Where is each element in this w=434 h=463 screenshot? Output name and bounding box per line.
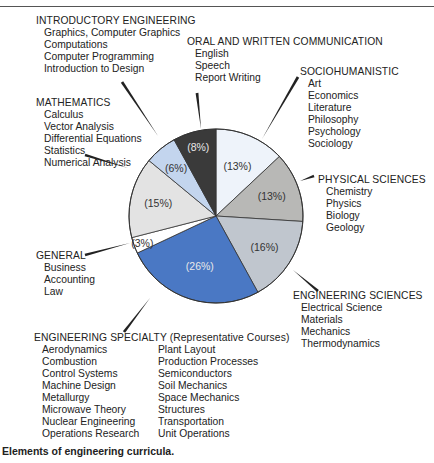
- course: Graphics, Computer Graphics: [36, 27, 196, 39]
- course: Business: [36, 262, 95, 274]
- course: Soil Mechanics: [158, 380, 258, 392]
- group-title: ENGINEERING SCIENCES: [293, 290, 423, 302]
- course: Vector Analysis: [36, 121, 142, 133]
- course: Psychology: [300, 126, 399, 138]
- course: Unit Operations: [158, 428, 258, 440]
- course: Sociology: [300, 138, 399, 150]
- course: Plant Layout: [158, 344, 258, 356]
- course: Statistics: [36, 145, 142, 157]
- slice-percent-label: (16%): [250, 241, 278, 253]
- label-physical-sciences: PHYSICAL SCIENCES Chemistry Physics Biol…: [318, 174, 426, 234]
- course: Physics: [318, 198, 426, 210]
- course: Thermodynamics: [293, 338, 423, 350]
- slice-percent-label: (13%): [223, 160, 251, 172]
- group-title: PHYSICAL SCIENCES: [318, 174, 426, 186]
- course: Chemistry: [318, 186, 426, 198]
- course: Introduction to Design: [36, 63, 196, 75]
- course: Calculus: [36, 109, 142, 121]
- slice-percent-label: (8%): [187, 141, 209, 153]
- slice-percent-label: (26%): [186, 260, 214, 272]
- course: Electrical Science: [293, 302, 423, 314]
- course: Art: [300, 78, 399, 90]
- leader-line: [262, 76, 299, 139]
- course: Materials: [293, 314, 423, 326]
- course: Economics: [300, 90, 399, 102]
- group-title: ORAL AND WRITTEN COMMUNICATION: [187, 36, 383, 48]
- slice-percent-label: (6%): [165, 162, 187, 174]
- group-title: ENGINEERING SPECIALTY (Representative Co…: [34, 332, 289, 344]
- group-title: GENERAL: [36, 250, 95, 262]
- specialty-column-2: Plant Layout Production Processes Semico…: [158, 344, 258, 440]
- label-mathematics: MATHEMATICS Calculus Vector Analysis Dif…: [36, 97, 142, 169]
- course: Geology: [318, 222, 426, 234]
- course: Computer Programming: [36, 51, 196, 63]
- label-sociohumanistic: SOCIOHUMANISTIC Art Economics Literature…: [300, 66, 399, 150]
- course: Numerical Analysis: [36, 157, 142, 169]
- course: Transportation: [158, 416, 258, 428]
- group-title: SOCIOHUMANISTIC: [300, 66, 399, 78]
- label-engineering-sciences: ENGINEERING SCIENCES Electrical Science …: [293, 290, 423, 350]
- leader-line: [123, 298, 150, 333]
- figure-caption: Elements of engineering curricula.: [2, 445, 174, 457]
- course: Philosophy: [300, 114, 399, 126]
- slice-percent-label: (13%): [258, 190, 286, 202]
- course: Literature: [300, 102, 399, 114]
- course: Biology: [318, 210, 426, 222]
- slice-percent-label: (3%): [131, 237, 153, 249]
- leader-line: [196, 93, 201, 129]
- course: Production Processes: [158, 356, 258, 368]
- leader-line: [300, 175, 314, 181]
- course: Accounting: [36, 274, 95, 286]
- course: Differential Equations: [36, 133, 142, 145]
- group-title: MATHEMATICS: [36, 97, 142, 109]
- course: English: [187, 48, 383, 60]
- course: Computations: [36, 39, 196, 51]
- course: Semiconductors: [158, 368, 258, 380]
- course: Law: [36, 286, 95, 298]
- course: Space Mechanics: [158, 392, 258, 404]
- leader-line: [293, 270, 319, 292]
- label-general: GENERAL Business Accounting Law: [36, 250, 95, 298]
- label-introductory-engineering: INTRODUCTORY ENGINEERING Graphics, Compu…: [36, 15, 196, 75]
- slice-percent-label: (15%): [144, 197, 172, 209]
- course: Structures: [158, 404, 258, 416]
- course: Mechanics: [293, 326, 423, 338]
- group-title: INTRODUCTORY ENGINEERING: [36, 15, 196, 27]
